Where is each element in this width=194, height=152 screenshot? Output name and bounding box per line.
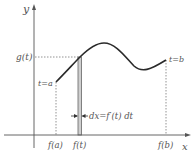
parametric-area-diagram: y x g(t) t=a t=b f(a) f(t) f(b) dx=f′(t)… bbox=[0, 0, 194, 152]
f-b-label: f(b) bbox=[157, 140, 173, 150]
g-t-label: g(t) bbox=[16, 52, 33, 62]
arrow-left-icon bbox=[82, 114, 86, 118]
y-axis-arrow-icon bbox=[32, 4, 36, 10]
x-axis-label: x bbox=[182, 141, 188, 152]
arrow-right-icon bbox=[74, 114, 78, 118]
f-a-label: f(a) bbox=[47, 140, 63, 150]
t-a-label: t=a bbox=[38, 79, 53, 88]
dx-strip bbox=[78, 57, 82, 135]
f-t-label: f(t) bbox=[72, 140, 86, 150]
x-axis-arrow-icon bbox=[185, 133, 191, 137]
y-axis-label: y bbox=[22, 3, 30, 16]
t-b-label: t=b bbox=[169, 55, 184, 64]
curve bbox=[56, 43, 166, 82]
dx-label: dx=f′(t) dt bbox=[89, 111, 134, 121]
